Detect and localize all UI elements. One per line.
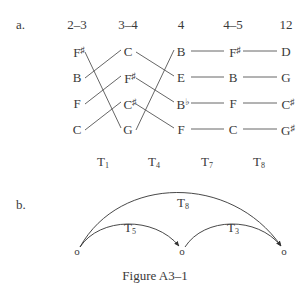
- figure-caption: Figure A3–1: [122, 269, 187, 282]
- sharp-icon: ♯: [290, 97, 295, 107]
- pitch-class-note: C♯: [123, 96, 136, 111]
- column-header: 4–5: [223, 18, 243, 31]
- connection-line: [136, 50, 174, 130]
- column-header: 2–3: [67, 18, 87, 31]
- pitch-class-note: F♯: [124, 70, 136, 85]
- pitch-class-note: E: [177, 71, 185, 84]
- pitch-class-note: G: [281, 71, 290, 84]
- pitch-class-note: C: [124, 45, 133, 58]
- pitch-class-note: B♭: [177, 96, 190, 111]
- network-node: o: [74, 245, 80, 258]
- pitch-class-note: F: [177, 123, 184, 136]
- pitch-class-note: D: [281, 45, 290, 58]
- pitch-class-note: G: [123, 123, 132, 136]
- arrow-label: T3: [227, 221, 239, 238]
- pitch-class-note: F: [73, 97, 80, 110]
- connection-line: [136, 52, 174, 76]
- arrow-label: T5: [124, 221, 136, 238]
- part-b-label: b.: [16, 198, 26, 211]
- network-node: o: [179, 245, 185, 258]
- network-node: o: [281, 245, 287, 258]
- column-header: 4: [178, 18, 185, 31]
- column-header: 3–4: [118, 18, 138, 31]
- pitch-class-note: C: [229, 123, 238, 136]
- sharp-icon: ♯: [290, 123, 295, 133]
- pitch-class-note: G♯: [281, 122, 295, 137]
- pitch-class-note: B: [229, 71, 238, 84]
- sharp-icon: ♯: [236, 45, 241, 55]
- transposition-label: T7: [201, 155, 213, 172]
- sharp-icon: ♯: [131, 71, 136, 81]
- transposition-label: T1: [97, 155, 109, 172]
- column-header: 12: [280, 18, 293, 31]
- pitch-class-note: F♯: [229, 44, 241, 59]
- flat-icon: ♭: [185, 97, 189, 107]
- pitch-class-note: C♯: [281, 96, 294, 111]
- pitch-class-note: F♯: [73, 44, 85, 59]
- pitch-class-note: F: [229, 97, 236, 110]
- pitch-class-note: B: [177, 45, 186, 58]
- connection-lines: [0, 0, 308, 296]
- transposition-label: T8: [253, 155, 265, 172]
- sharp-icon: ♯: [80, 45, 85, 55]
- pitch-class-note: B: [73, 71, 82, 84]
- pitch-class-note: C: [73, 123, 82, 136]
- transposition-label: T4: [148, 155, 160, 172]
- connection-line: [136, 104, 174, 128]
- connection-line: [85, 76, 121, 104]
- part-a-label: a.: [16, 18, 25, 31]
- sharp-icon: ♯: [132, 97, 137, 107]
- arrow-label: T8: [177, 196, 189, 213]
